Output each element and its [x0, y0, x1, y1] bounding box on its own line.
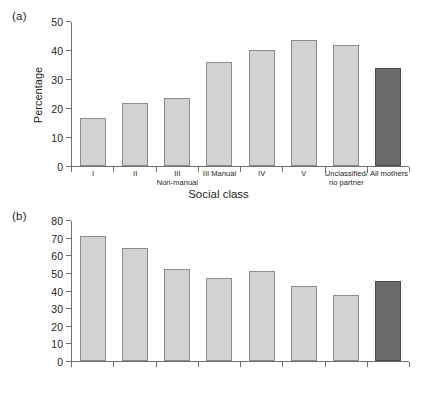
x-tick-label: II [114, 170, 156, 187]
panel-b-y-tick [66, 255, 71, 256]
bar [80, 118, 106, 166]
panel-a-y-tick-label: 50 [51, 16, 63, 28]
panel-b-tag: (b) [12, 210, 27, 222]
x-tick-label: Unclassified/ no partner [325, 170, 368, 187]
bar [80, 236, 106, 361]
panel-b-y-tick [66, 273, 71, 274]
panel-b-x-tick [367, 362, 368, 367]
panel-b-x-tick [113, 362, 114, 367]
bar-slot [198, 221, 240, 361]
panel-b-y-tick-label: 60 [51, 250, 63, 262]
panel-b-y-tick [66, 308, 71, 309]
panel-a-y-tick [66, 21, 71, 22]
x-tick-label: III Manual [198, 170, 240, 187]
panel-b-y-tick-label: 50 [51, 268, 63, 280]
bar [375, 68, 401, 166]
panel-b-y-tick [66, 291, 71, 292]
bar-slot [156, 22, 198, 166]
panel-a-plot-area: 01020304050 [71, 22, 409, 167]
bar-slot [72, 22, 114, 166]
bar [333, 45, 359, 166]
panel-b-y-tick [66, 343, 71, 344]
panel-b-y-tick-label: 10 [51, 338, 63, 350]
x-tick-label: III Non-manual [156, 170, 198, 187]
panel-a-y-tick-label: 40 [51, 45, 63, 57]
bar [164, 98, 190, 166]
panel-b-x-tick [71, 362, 72, 367]
panel-b-x-tick [240, 362, 241, 367]
panel-b-y-tick-label: 40 [51, 286, 63, 298]
bar [122, 103, 148, 166]
bar [206, 278, 232, 361]
panel-a-bars [72, 22, 409, 166]
panel-b-y-tick-label: 70 [51, 233, 63, 245]
panel-b-bars [72, 221, 409, 361]
panel-a: (a) Percentage 01020304050 IIIIII Non-ma… [0, 0, 421, 200]
bar [333, 295, 359, 362]
bar-slot [325, 22, 367, 166]
panel-a-y-axis-label: Percentage [32, 67, 44, 123]
panel-a-y-tick-label: 30 [51, 74, 63, 86]
panel-a-y-tick-label: 0 [57, 161, 63, 173]
panel-a-y-tick [66, 108, 71, 109]
bar [164, 269, 190, 361]
panel-a-y-tick [66, 137, 71, 138]
bar-slot [72, 221, 114, 361]
panel-b-y-tick-label: 0 [57, 356, 63, 368]
x-tick-label: V [283, 170, 325, 187]
x-tick-label: IV [241, 170, 283, 187]
panel-b-plot-area: 01020304050607080 [71, 221, 409, 362]
bar [291, 286, 317, 361]
panel-a-y-tick-label: 10 [51, 132, 63, 144]
panel-b-y-tick-label: 20 [51, 321, 63, 333]
bar-slot [156, 221, 198, 361]
bar [291, 40, 317, 166]
panel-b-x-tick [156, 362, 157, 367]
bar [122, 248, 148, 361]
panel-a-tag: (a) [12, 10, 27, 22]
bar-slot [114, 22, 156, 166]
panel-b-x-tick [409, 362, 410, 367]
bar [249, 50, 275, 166]
bar-slot [283, 221, 325, 361]
bar-slot [283, 22, 325, 166]
bar-slot [198, 22, 240, 166]
bar-slot [241, 221, 283, 361]
panel-b: (b) Percentage 01020304050607080 IIIIII … [0, 200, 421, 403]
panel-b-x-tick [282, 362, 283, 367]
panel-a-y-tick [66, 79, 71, 80]
bar [375, 281, 401, 361]
panel-b-y-tick [66, 238, 71, 239]
panel-b-y-tick [66, 220, 71, 221]
bar-slot [367, 221, 409, 361]
panel-b-y-tick-label: 30 [51, 303, 63, 315]
panel-b-x-tick [325, 362, 326, 367]
bar-slot [367, 22, 409, 166]
panel-a-x-tick-labels: IIIIII Non-manualIII ManualIVVUnclassifi… [72, 170, 410, 187]
bar-slot [241, 22, 283, 166]
panel-b-x-tick [198, 362, 199, 367]
x-tick-label: I [72, 170, 114, 187]
panel-b-y-tick [66, 326, 71, 327]
bar [249, 271, 275, 361]
bar-slot [325, 221, 367, 361]
bar [206, 62, 232, 166]
bar-slot [114, 221, 156, 361]
panel-a-y-tick [66, 50, 71, 51]
x-tick-label: All mothers [368, 170, 410, 187]
panel-b-y-tick-label: 80 [51, 215, 63, 227]
bar-chart-figure: (a) Percentage 01020304050 IIIIII Non-ma… [0, 0, 421, 403]
panel-a-y-tick-label: 20 [51, 103, 63, 115]
panel-a-x-axis-title: Social class [8, 188, 421, 200]
